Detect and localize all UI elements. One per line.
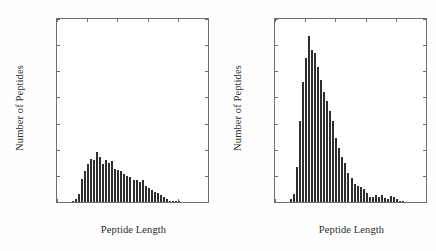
- histogram-bar: [178, 201, 181, 202]
- bars-layer-left: [57, 19, 208, 202]
- histogram-bar: [402, 201, 405, 202]
- plot-area-right: 020040060080010001200140001020304050: [274, 18, 427, 203]
- chart-panel-left: Number of Peptides Peptide Length 020040…: [0, 0, 218, 251]
- figure-histogram-pair: Number of Peptides Peptide Length 020040…: [0, 0, 436, 251]
- bars-layer-right: [275, 19, 426, 202]
- y-axis-label-right: Number of Peptides: [232, 13, 246, 203]
- plot-area-left: 020040060080010001200140001020304050: [56, 18, 209, 203]
- y-axis-label-left: Number of Peptides: [14, 13, 28, 203]
- x-axis-label-right: Peptide Length: [274, 224, 429, 235]
- chart-panel-right: Number of Peptides Peptide Length 020040…: [218, 0, 436, 251]
- x-axis-label-left: Peptide Length: [56, 224, 211, 235]
